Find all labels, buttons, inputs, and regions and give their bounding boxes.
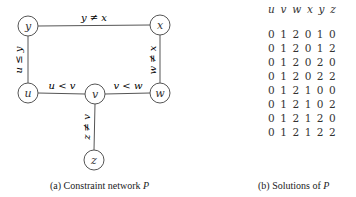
caption-a: (a) Constraint network P <box>50 180 149 191</box>
node-label-z: z <box>90 154 97 167</box>
solutions-table: u v w x y z 0 1 2 0 1 0 0 1 2 0 1 2 0 1 … <box>268 2 348 139</box>
solution-row: 0 1 2 0 2 0 <box>268 55 348 69</box>
node-label-u: u <box>24 87 31 100</box>
solution-row: 0 1 2 1 0 0 <box>268 83 348 97</box>
solution-row: 0 1 2 0 1 0 <box>268 27 348 41</box>
node-label-w: w <box>155 87 165 100</box>
node-label-y: y <box>24 20 32 33</box>
edge-y-x <box>38 25 150 26</box>
solutions-header: u v w x y z <box>268 2 348 16</box>
solution-row: 0 1 2 1 2 2 <box>268 125 348 139</box>
edge-label-y-x: y ≠ x <box>80 12 107 23</box>
edge-label-u-y: u ≤ y <box>13 46 24 73</box>
edge-label-v-w: v < w <box>114 80 143 91</box>
edge-u-v <box>38 93 85 94</box>
solution-row: 0 1 2 1 0 2 <box>268 97 348 111</box>
edge-label-z-v: z ≠ v <box>81 114 92 141</box>
caption-b: (b) Solutions of P <box>258 180 329 191</box>
edge-label-u-v: u < v <box>49 80 76 91</box>
edge-label-w-x: w ≠ x <box>147 45 158 74</box>
solution-row: 0 1 2 0 2 2 <box>268 69 348 83</box>
caption-a-var: P <box>143 180 149 191</box>
edge-v-w <box>105 93 150 94</box>
caption-b-var: P <box>323 180 329 191</box>
caption-b-text: (b) Solutions of <box>258 180 323 191</box>
solution-row: 0 1 2 0 1 2 <box>268 41 348 55</box>
caption-a-text: (a) Constraint network <box>50 180 143 191</box>
constraint-network-diagram: y ≠ x u ≤ y w ≠ x u < v v < w z ≠ v y x … <box>0 0 230 197</box>
solution-row: 0 1 2 1 2 0 <box>268 111 348 125</box>
node-label-v: v <box>92 88 99 101</box>
edge-v-z <box>94 104 95 150</box>
node-label-x: x <box>157 19 164 32</box>
